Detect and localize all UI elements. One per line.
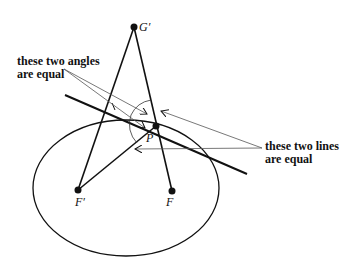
- label-g-prime: G′: [139, 20, 151, 34]
- pointer-line-2: [135, 148, 262, 149]
- ellipse: [33, 120, 219, 256]
- ellipse-diagram: G′ P F′ F these two angles are equal the…: [0, 0, 348, 275]
- angle-arc-upper: [131, 100, 151, 115]
- pointer-angle-2: [64, 69, 145, 128]
- tangent-line: [65, 95, 247, 174]
- point-f-prime: [75, 187, 82, 194]
- line-gprime-fprime: [78, 27, 134, 190]
- point-g-prime: [131, 24, 138, 31]
- annotation-lines-line2: are equal: [265, 152, 313, 166]
- point-f: [169, 188, 176, 195]
- line-gprime-f: [134, 27, 172, 191]
- label-f-prime: F′: [74, 195, 85, 209]
- annotation-lines-line1: these two lines: [265, 139, 339, 153]
- annotation-angles-line2: are equal: [17, 67, 65, 81]
- label-f: F: [165, 195, 174, 209]
- label-p: P: [145, 131, 154, 145]
- pointer-angle-1: [64, 69, 147, 114]
- annotation-angles-line1: these two angles: [17, 54, 100, 68]
- point-p: [153, 123, 160, 130]
